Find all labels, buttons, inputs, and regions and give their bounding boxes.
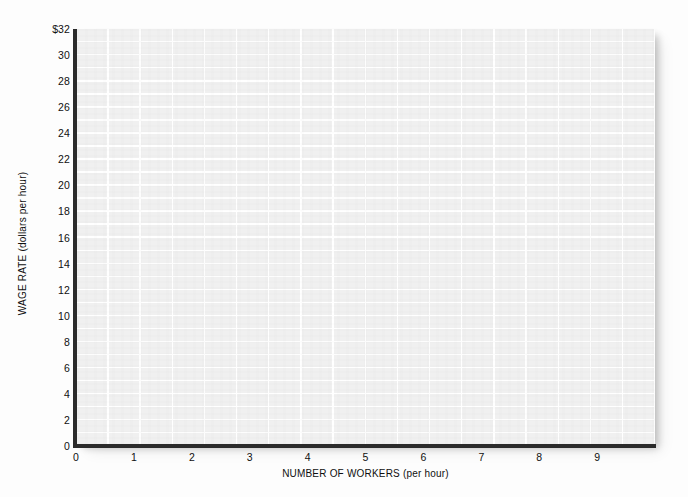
y-tick-label: 4 <box>36 389 70 400</box>
y-tick-label: 6 <box>36 363 70 374</box>
x-tick-label: 6 <box>411 452 435 463</box>
wage-rate-workers-chart: 024681012141618202224262830$32 012345678… <box>0 0 688 497</box>
y-tick-label: 18 <box>36 206 70 217</box>
y-tick-label: 30 <box>36 50 70 61</box>
y-tick-label: 24 <box>36 128 70 139</box>
y-tick-label: $32 <box>36 24 70 35</box>
y-axis-line <box>73 29 77 447</box>
x-axis-tick-labels: 0123456789 <box>0 452 688 468</box>
y-tick-label: 10 <box>36 311 70 322</box>
x-tick-label: 2 <box>180 452 204 463</box>
x-axis-line <box>73 444 656 448</box>
y-axis-tick-labels: 024681012141618202224262830$32 <box>32 0 70 497</box>
x-axis-title: NUMBER OF WORKERS (per hour) <box>76 468 655 479</box>
y-tick-label: 28 <box>36 76 70 87</box>
y-tick-label: 8 <box>36 337 70 348</box>
y-tick-label: 14 <box>36 259 70 270</box>
y-tick-label: 22 <box>36 154 70 165</box>
x-tick-label: 7 <box>469 452 493 463</box>
y-tick-label: 20 <box>36 180 70 191</box>
x-tick-label: 9 <box>585 452 609 463</box>
x-tick-label: 8 <box>527 452 551 463</box>
y-axis-title: WAGE RATE (dollars per hour) <box>17 144 28 344</box>
x-tick-label: 3 <box>238 452 262 463</box>
y-tick-label: 26 <box>36 102 70 113</box>
y-tick-label: 2 <box>36 415 70 426</box>
y-tick-label: 12 <box>36 285 70 296</box>
y-tick-label: 16 <box>36 233 70 244</box>
x-tick-label: 5 <box>354 452 378 463</box>
y-tick-label: 0 <box>36 441 70 452</box>
x-tick-label: 1 <box>122 452 146 463</box>
plot-area[interactable] <box>76 29 655 446</box>
paper-texture-overlay <box>76 29 655 446</box>
x-tick-label: 4 <box>296 452 320 463</box>
x-tick-label: 0 <box>64 452 88 463</box>
